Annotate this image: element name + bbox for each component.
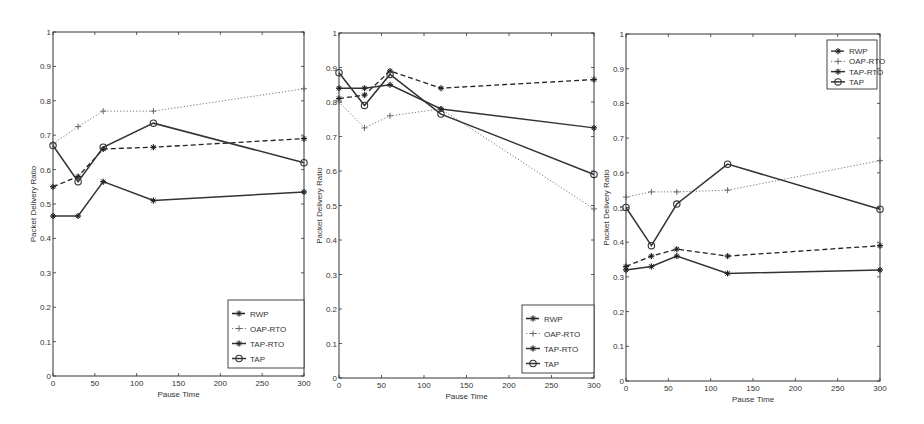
legend-label: TAP-RTO [250,340,284,349]
data-point [591,77,597,83]
x-tick-label: 150 [746,384,760,393]
legend-marker [530,346,536,352]
x-tick-label: 250 [545,381,559,390]
series-line [339,102,594,209]
data-point [100,108,106,114]
x-tick-label: 250 [831,384,845,393]
x-tick-label: 300 [297,379,311,388]
series-oap-rto [50,86,307,147]
series-rwp [336,68,597,102]
series-line [53,139,304,187]
chart-panel-1: 05010015020025030000.10.20.30.40.50.60.7… [29,28,311,399]
x-tick-label: 50 [377,381,386,390]
data-point [150,198,156,204]
data-point [648,253,654,259]
legend-label: OAP-RTO [849,57,885,66]
y-tick-label: 0.7 [326,133,338,142]
y-tick-label: 0.3 [326,271,338,280]
y-tick-label: 0 [333,374,338,383]
legend: RWPOAP-RTOTAP-RTOTAP [228,300,304,368]
series-tap-rto [623,253,883,276]
y-tick-label: 0.2 [613,308,625,317]
x-tick-label: 200 [214,379,228,388]
y-tick-label: 0.4 [326,236,338,245]
series-rwp [623,243,883,270]
legend-marker [236,341,242,347]
y-tick-label: 1 [620,30,625,39]
x-tick-label: 300 [587,381,601,390]
data-point [75,213,81,219]
series-tap-rto [50,179,307,219]
series-line [53,182,304,216]
data-point [50,213,56,219]
legend-label: OAP-RTO [544,330,580,339]
x-tick-label: 150 [172,379,186,388]
legend-marker [236,311,242,317]
data-point [725,253,731,259]
x-tick-label: 100 [417,381,431,390]
legend-label: RWP [849,47,868,56]
x-tick-label: 100 [130,379,144,388]
y-tick-label: 0.9 [40,62,52,71]
x-tick-label: 150 [460,381,474,390]
y-axis-label: Packet Delivery Ratio [29,165,38,242]
chart-panel-3: 05010015020025030000.10.20.30.40.50.60.7… [602,30,887,404]
y-tick-label: 0.2 [40,303,52,312]
y-tick-label: 1 [47,28,52,37]
legend-marker [835,69,841,75]
series-line [626,256,880,273]
legend-marker [835,48,841,54]
legend: RWPOAP-RTOTAP-RTOTAP [522,305,594,373]
y-tick-label: 0.4 [613,238,625,247]
legend-label: OAP-RTO [250,325,286,334]
series-oap-rto [623,158,883,200]
data-point [50,184,56,190]
series-line [53,89,304,144]
figure: 05010015020025030000.10.20.30.40.50.60.7… [0,0,924,424]
series-line [339,71,594,99]
data-point [648,189,654,195]
y-tick-label: 0.8 [40,97,52,106]
data-point [648,263,654,269]
y-tick-label: 0.5 [326,202,338,211]
data-point [591,125,597,131]
legend-label: RWP [544,315,563,324]
x-tick-label: 100 [704,384,718,393]
legend-label: TAP [544,360,559,369]
data-point [362,85,368,91]
y-tick-label: 0.1 [326,340,338,349]
y-axis-label: Packet Delivery Ratio [602,169,611,246]
y-tick-label: 0.1 [613,342,625,351]
data-point [623,267,629,273]
data-point [438,85,444,91]
y-tick-label: 0.9 [613,65,625,74]
data-point [674,253,680,259]
y-tick-label: 0.3 [613,273,625,282]
x-tick-label: 50 [664,384,673,393]
x-axis-label: Pause Time [157,390,200,399]
legend-label: RWP [250,310,269,319]
y-tick-label: 0.6 [326,167,338,176]
data-point [301,189,307,195]
data-point [725,187,731,193]
data-point [362,92,368,98]
y-tick-label: 0 [47,372,52,381]
legend-label: TAP-RTO [544,345,578,354]
y-tick-label: 0.1 [40,338,52,347]
y-tick-label: 0.4 [40,234,52,243]
data-point [362,125,368,131]
x-tick-label: 200 [789,384,803,393]
data-point [877,267,883,273]
x-tick-label: 0 [624,384,629,393]
chart-panel-2: 05010015020025030000.10.20.30.40.50.60.7… [315,29,601,401]
x-tick-label: 0 [337,381,342,390]
y-axis-label: Packet Delivery Ratio [315,167,324,244]
y-tick-label: 0.6 [613,169,625,178]
y-tick-label: 0.7 [40,131,52,140]
data-point [877,158,883,164]
data-point [725,270,731,276]
data-point [674,189,680,195]
series-tap [623,161,883,249]
data-point [591,206,597,212]
series-rwp [50,136,307,190]
